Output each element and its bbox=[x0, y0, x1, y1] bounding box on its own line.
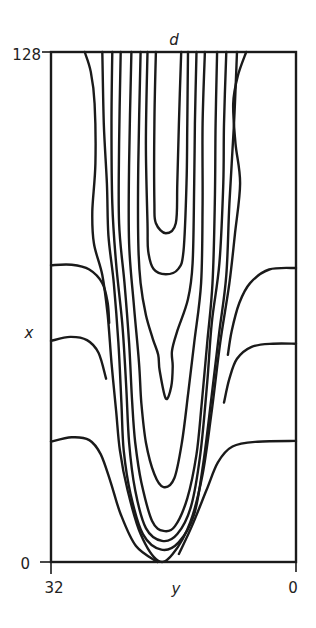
contour-side-level-high-part-2 bbox=[228, 268, 296, 355]
y-axis-ticks: 128 0 bbox=[12, 46, 51, 573]
contour-inner-u-2 bbox=[146, 52, 188, 274]
contour-inner-u-1 bbox=[154, 52, 181, 233]
contour-lines bbox=[51, 52, 296, 562]
contour-side-level-low-part-1 bbox=[51, 437, 157, 562]
contour-mid-u-4 bbox=[102, 52, 237, 550]
contour-side-level-high-part-1 bbox=[51, 265, 109, 323]
plot-frame bbox=[51, 52, 296, 562]
tick-label-y-32: 32 bbox=[44, 579, 63, 597]
chart-title: d bbox=[169, 31, 179, 49]
tick-label-y-0: 0 bbox=[288, 579, 298, 597]
contour-side-level-mid-part-1 bbox=[51, 337, 106, 379]
tick-label-x-128: 128 bbox=[12, 46, 41, 64]
contour-chart: d 128 0 x 32 0 y bbox=[0, 0, 316, 628]
y-axis-label: x bbox=[24, 324, 34, 342]
contour-side-level-mid-part-2 bbox=[224, 343, 296, 402]
x-axis-label: y bbox=[171, 580, 182, 598]
tick-label-x-0: 0 bbox=[20, 555, 30, 573]
